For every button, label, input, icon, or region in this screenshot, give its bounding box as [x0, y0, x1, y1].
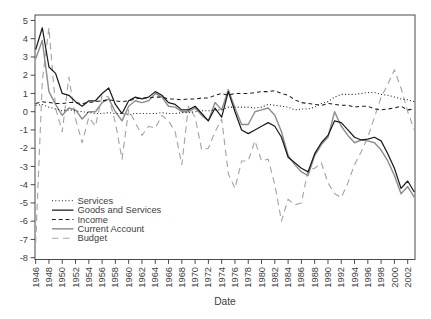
x-tick-label: 1954	[84, 267, 94, 288]
series-line-current-account	[36, 41, 415, 198]
y-tick-label: -6	[20, 216, 28, 226]
x-tick-label: 1992	[336, 267, 346, 288]
y-tick-label: -3	[20, 162, 28, 172]
y-tick-label: 2	[23, 70, 28, 80]
y-tick-label: -7	[20, 235, 28, 245]
y-tick-label: -8	[20, 253, 28, 263]
legend-label: Budget	[78, 233, 108, 243]
x-axis-title: Date	[214, 296, 236, 307]
x-tick-label: 1956	[97, 267, 107, 288]
x-tick-label: 1962	[137, 267, 147, 288]
x-tick-label: 1978	[243, 267, 253, 288]
x-tick-label: 1950	[57, 267, 67, 288]
y-tick-label: 1	[23, 89, 28, 99]
y-tick-label: 4	[23, 34, 28, 44]
y-tick-label: -5	[20, 198, 28, 208]
x-tick-label: 1990	[323, 267, 333, 288]
y-tick-label: -2	[20, 143, 28, 153]
x-tick-label: 1970	[190, 267, 200, 288]
x-tick-label: 1994	[350, 267, 360, 288]
y-tick-label: 0	[23, 107, 28, 117]
x-tick-label: 1948	[44, 267, 54, 288]
x-tick-label: 1966	[164, 267, 174, 288]
x-tick-label: 2002	[403, 267, 413, 288]
x-tick-label: 1972	[203, 267, 213, 288]
x-tick-label: 1968	[177, 267, 187, 288]
time-series-line-chart: -8-7-6-5-4-3-2-1012345194619481950195219…	[0, 0, 431, 319]
x-tick-label: 1974	[217, 267, 227, 288]
legend-item-budget: Budget	[52, 233, 107, 243]
x-tick-label: 1996	[363, 267, 373, 288]
x-tick-label: 1980	[257, 267, 267, 288]
y-tick-label: 3	[23, 52, 28, 62]
x-tick-label: 1998	[376, 267, 386, 288]
series-line-goods-and-services	[36, 28, 415, 192]
x-tick-label: 1958	[110, 267, 120, 288]
axes: -8-7-6-5-4-3-2-1012345194619481950195219…	[20, 15, 415, 288]
y-tick-label: -1	[20, 125, 28, 135]
x-tick-label: 1988	[310, 267, 320, 288]
y-tick-label: -4	[20, 180, 28, 190]
y-tick-label: 5	[23, 16, 28, 26]
legend: ServicesGoods and ServicesIncomeCurrent …	[52, 196, 162, 243]
x-tick-label: 1982	[270, 267, 280, 288]
x-tick-label: 1986	[296, 267, 306, 288]
chart-figure: -8-7-6-5-4-3-2-1012345194619481950195219…	[0, 0, 431, 319]
x-tick-label: 1946	[31, 267, 41, 288]
x-tick-label: 1964	[150, 267, 160, 288]
x-tick-label: 2000	[390, 267, 400, 288]
x-tick-label: 1976	[230, 267, 240, 288]
x-tick-label: 1984	[283, 267, 293, 288]
x-tick-label: 1960	[124, 267, 134, 288]
x-tick-label: 1952	[71, 267, 81, 288]
